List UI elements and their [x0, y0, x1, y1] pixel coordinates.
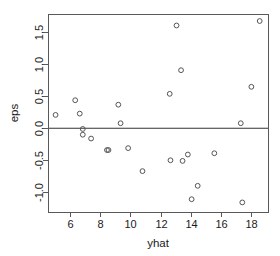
y-tick-label-4: 1.0: [33, 57, 45, 72]
x-tick-label-3: 12: [155, 218, 167, 230]
x-tick-label-5: 16: [215, 218, 227, 230]
x-axis-title: yhat: [147, 237, 170, 249]
plot-canvas: 681012141618 -1.0-0.50.00.51.01.5 yhat e…: [0, 0, 280, 256]
y-tick-label-0: -1.0: [33, 183, 45, 202]
x-tick-label-0: 6: [67, 218, 73, 230]
x-tick-label-6: 18: [245, 218, 257, 230]
x-tick-label-2: 10: [124, 218, 136, 230]
x-tick-label-1: 8: [97, 218, 103, 230]
y-tick-label-5: 1.5: [33, 25, 45, 40]
x-tick-label-4: 14: [185, 218, 197, 230]
scatter-plot-figure: 681012141618 -1.0-0.50.00.51.01.5 yhat e…: [0, 0, 280, 256]
y-axis-title: eps: [8, 103, 20, 122]
y-tick-label-1: -0.5: [33, 151, 45, 170]
y-tick-label-3: 0.5: [33, 89, 45, 104]
y-tick-label-2: 0.0: [33, 121, 45, 136]
